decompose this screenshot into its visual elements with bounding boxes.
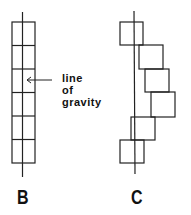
line-of-gravity-label: line of gravity [62, 72, 102, 108]
label-b: B [17, 186, 29, 209]
label-c: C [131, 186, 143, 209]
label-line-1: line [62, 72, 102, 84]
stack-c [120, 11, 175, 174]
stack-b [12, 12, 35, 177]
label-line-3: gravity [62, 96, 102, 108]
gravity-line-c [134, 11, 135, 174]
label-line-2: of [62, 84, 102, 96]
arrow-icon [27, 77, 52, 83]
